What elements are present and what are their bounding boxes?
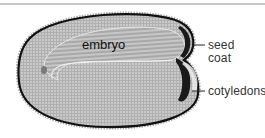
- seed-coat-label-line2: coat: [208, 52, 231, 65]
- embryo-label: embryo: [82, 37, 125, 52]
- cotyledons-label: cotyledons: [208, 85, 265, 98]
- seed-cross-section-image: [0, 0, 265, 138]
